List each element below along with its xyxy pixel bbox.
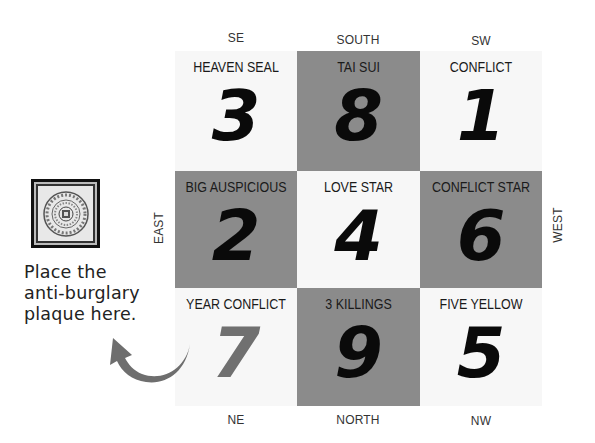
direction-south: SOUTH	[297, 33, 419, 47]
cell-label: CONFLICT STAR	[429, 179, 534, 195]
star-number: 8	[297, 77, 420, 155]
cell-label: 3 KILLINGS	[306, 296, 412, 312]
star-number: 4	[297, 197, 420, 275]
star-number: 2	[175, 197, 297, 275]
direction-sw: SW	[420, 34, 542, 48]
star-number: 5	[420, 314, 542, 392]
curved-arrow-icon	[108, 334, 192, 386]
direction-se: SE	[175, 31, 297, 45]
flying-star-grid: HEAVEN SEAL 3 TAI SUI 8 CONFLICT 1 BIG A…	[175, 51, 542, 406]
direction-nw: NW	[420, 414, 542, 428]
plaque-mandala-icon	[41, 189, 91, 239]
star-number: 9	[297, 314, 420, 392]
cell-ne-year-conflict: YEAR CONFLICT 7	[175, 288, 297, 406]
direction-ne: NE	[175, 413, 297, 427]
direction-east: EAST	[152, 212, 166, 244]
cell-label: HEAVEN SEAL	[184, 59, 289, 75]
cell-sw-conflict: CONFLICT 1	[420, 51, 542, 171]
star-number: 6	[420, 197, 542, 275]
cell-center-love-star: LOVE STAR 4	[297, 171, 420, 288]
star-number: 1	[420, 77, 542, 155]
anti-burglary-plaque-icon	[31, 179, 100, 248]
star-number: 3	[175, 77, 297, 155]
cell-nw-five-yellow: FIVE YELLOW 5	[420, 288, 542, 406]
star-number: 7	[175, 314, 297, 392]
direction-west: WEST	[551, 207, 565, 242]
caption-line-1: Place the	[24, 262, 140, 283]
cell-label: CONFLICT	[429, 59, 534, 75]
cell-label: YEAR CONFLICT	[184, 296, 289, 312]
cell-label: BIG AUSPICIOUS	[184, 179, 289, 195]
cell-se-heaven-seal: HEAVEN SEAL 3	[175, 51, 297, 171]
direction-north: NORTH	[297, 413, 419, 427]
caption-line-3: plaque here.	[24, 304, 140, 325]
cell-east-big-auspicious: BIG AUSPICIOUS 2	[175, 171, 297, 288]
cell-label: TAI SUI	[306, 59, 412, 75]
cell-south-tai-sui: TAI SUI 8	[297, 51, 420, 171]
cell-label: LOVE STAR	[306, 179, 412, 195]
caption-line-2: anti-burglary	[24, 283, 140, 304]
cell-north-3-killings: 3 KILLINGS 9	[297, 288, 420, 406]
cell-west-conflict-star: CONFLICT STAR 6	[420, 171, 542, 288]
plaque-caption: Place the anti-burglary plaque here.	[24, 262, 140, 325]
cell-label: FIVE YELLOW	[429, 296, 534, 312]
